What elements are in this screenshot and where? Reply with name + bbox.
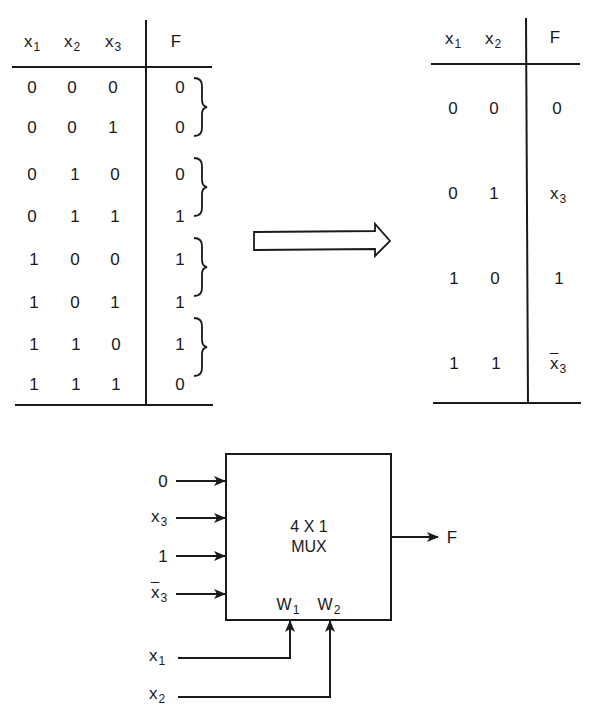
cell: 1 — [29, 294, 38, 311]
left-header-x1: x1 — [24, 33, 40, 53]
cell: 1 — [29, 376, 38, 393]
mux-select-pin-w2: W2 — [318, 597, 341, 616]
right-header-f: F — [550, 29, 560, 46]
select-signal-x1: x1 — [149, 647, 165, 667]
cell: 1 — [71, 376, 80, 393]
cell: 0 — [110, 251, 119, 268]
cell: 1 — [489, 185, 498, 202]
mux-label-name: MUX — [290, 537, 327, 557]
cell: 0 — [175, 166, 184, 183]
cell: 1 — [175, 208, 184, 225]
cell: 0 — [27, 79, 36, 96]
left-header-x3: x3 — [105, 33, 121, 53]
right-header-x2: x2 — [485, 30, 501, 50]
cell: 0 — [108, 79, 117, 96]
cell: 1 — [175, 251, 184, 268]
cell: 0 — [448, 100, 457, 117]
cell: 1 — [70, 166, 79, 183]
right-table-lines — [431, 18, 581, 403]
cell: 0 — [175, 376, 184, 393]
left-header-f: F — [171, 33, 181, 50]
diagram-lines — [0, 0, 606, 722]
cell: 1 — [449, 355, 458, 372]
cell: 1 — [449, 270, 458, 287]
cell: 1 — [70, 208, 79, 225]
cell: x3 — [550, 355, 566, 375]
right-header-x1: x1 — [445, 30, 461, 50]
cell: 1 — [111, 376, 120, 393]
cell: 0 — [490, 270, 499, 287]
cell: 1 — [108, 119, 117, 136]
cell: 0 — [111, 336, 120, 353]
hollow-right-arrow-icon — [254, 224, 390, 256]
cell: 1 — [110, 294, 119, 311]
mux-input-label-0: 0 — [158, 473, 167, 490]
brace-group — [194, 78, 207, 376]
cell: 0 — [552, 100, 561, 117]
cell: 0 — [175, 79, 184, 96]
mux-output-label: F — [447, 529, 457, 546]
cell: 1 — [554, 270, 563, 287]
cell: 1 — [29, 251, 38, 268]
cell: 0 — [67, 119, 76, 136]
cell: 1 — [29, 336, 38, 353]
cell: 0 — [70, 294, 79, 311]
left-header-x2: x2 — [64, 33, 80, 53]
mux-input-label-2: 1 — [158, 548, 167, 565]
cell: 0 — [70, 251, 79, 268]
cell: 0 — [27, 208, 36, 225]
mux-label: 4 X 1 MUX — [290, 517, 327, 557]
cell: 1 — [175, 336, 184, 353]
mux-select-pin-w1: W1 — [277, 597, 300, 616]
cell: 1 — [110, 208, 119, 225]
cell: 1 — [491, 355, 500, 372]
cell: 0 — [27, 119, 36, 136]
select-line-x1 — [178, 621, 290, 658]
mux-input-label-1: x3 — [151, 508, 167, 528]
cell: x3 — [550, 185, 566, 205]
cell: 0 — [175, 119, 184, 136]
mux-label-size: 4 X 1 — [290, 517, 327, 537]
cell: 0 — [448, 185, 457, 202]
cell: 0 — [67, 79, 76, 96]
cell: 1 — [175, 294, 184, 311]
select-signal-x2: x2 — [149, 685, 165, 705]
cell: 1 — [71, 336, 80, 353]
cell: 0 — [110, 166, 119, 183]
mux-input-label-3: x3 — [151, 584, 167, 604]
cell: 0 — [27, 166, 36, 183]
cell: 0 — [489, 100, 498, 117]
